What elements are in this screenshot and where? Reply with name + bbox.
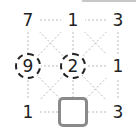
cell-r0c1[interactable]: 1 xyxy=(61,8,85,32)
cell-r2c2[interactable]: 3 xyxy=(106,100,130,124)
cell-r1c0-circled[interactable]: 9 xyxy=(15,53,41,79)
cell-r1c2[interactable]: 1 xyxy=(106,54,130,78)
empty-cell-selected[interactable] xyxy=(58,97,88,127)
cell-r1c1-circled[interactable]: 2 xyxy=(60,53,86,79)
cell-r2c0[interactable]: 1 xyxy=(16,100,40,124)
cell-r0c2[interactable]: 3 xyxy=(106,8,130,32)
cell-r0c0[interactable]: 7 xyxy=(16,8,40,32)
